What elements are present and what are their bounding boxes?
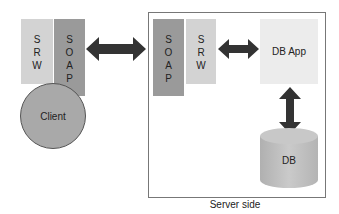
letter: O	[165, 46, 173, 59]
letter: S	[165, 33, 172, 46]
letter: S	[34, 33, 41, 46]
client-node: Client	[20, 83, 86, 149]
server-side-caption: Server side	[200, 199, 270, 210]
db-app-block: DB App	[260, 19, 318, 84]
letter: R	[33, 46, 40, 59]
db-label: DB	[260, 155, 318, 166]
letter: R	[197, 46, 204, 59]
letter: S	[66, 33, 73, 46]
letter: P	[165, 72, 172, 85]
letter: W	[196, 59, 205, 72]
letter: A	[66, 59, 73, 72]
db-app-label: DB App	[272, 46, 306, 57]
srw-dbapp-arrow-icon	[218, 39, 259, 59]
client-srw-block: S R W	[21, 19, 53, 84]
server-srw-block: S R W	[186, 19, 216, 84]
dbapp-db-arrow-icon	[279, 87, 301, 134]
letter: O	[66, 46, 74, 59]
letter: P	[66, 72, 73, 85]
letter: A	[165, 59, 172, 72]
client-label: Client	[40, 111, 66, 122]
client-server-arrow-icon	[86, 37, 146, 61]
letter: W	[32, 59, 41, 72]
letter: S	[198, 33, 205, 46]
server-soap-block: S O A P	[153, 19, 184, 96]
